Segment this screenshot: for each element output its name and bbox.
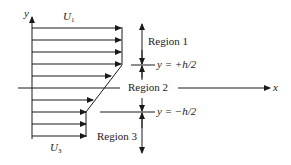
velocity-label-top: U1 bbox=[63, 10, 75, 24]
velocity-profile-diagram: y x U1 U3 y = +h/2 bbox=[0, 0, 291, 165]
y-axis-label: y bbox=[23, 7, 29, 19]
region-3-label: Region 3 bbox=[97, 130, 138, 142]
region-2-label: Region 2 bbox=[128, 81, 168, 93]
velocity-label-bottom: U3 bbox=[50, 141, 62, 155]
x-axis-label: x bbox=[272, 81, 278, 93]
velocity-profile-envelope bbox=[86, 27, 122, 137]
boundary-upper-label: y = +h/2 bbox=[156, 58, 197, 70]
velocity-arrows bbox=[32, 28, 121, 136]
region-1-label: Region 1 bbox=[148, 35, 188, 47]
boundary-lower-label: y = −h/2 bbox=[156, 105, 197, 117]
